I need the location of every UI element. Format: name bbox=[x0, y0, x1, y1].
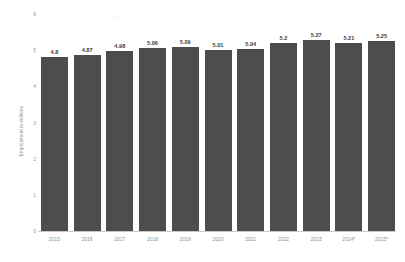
bar-value-label: 5.21 bbox=[335, 35, 362, 41]
bar-group: 5.09 bbox=[172, 14, 199, 231]
bar-group: 4.98 bbox=[106, 14, 133, 231]
bar-value-label: 5.06 bbox=[139, 40, 166, 46]
x-axis-tick: 2024* bbox=[333, 236, 364, 242]
x-axis-line bbox=[38, 231, 396, 232]
bar-group: 5.06 bbox=[139, 14, 166, 231]
x-axis-tick: 2021 bbox=[235, 236, 266, 242]
bar bbox=[172, 47, 199, 231]
bar bbox=[237, 49, 264, 231]
x-axis-tick: 2020 bbox=[203, 236, 234, 242]
bar-group: 5.01 bbox=[205, 14, 232, 231]
bar-value-label: 5.27 bbox=[303, 32, 330, 38]
bar bbox=[106, 51, 133, 231]
bar-value-label: 4.8 bbox=[41, 49, 68, 55]
bar-group: 5.27 bbox=[303, 14, 330, 231]
x-axis-tick-labels: 2015201620172018201920202021202220232024… bbox=[38, 236, 398, 248]
y-axis-tick: 0 bbox=[22, 228, 36, 234]
bar-group: 5.04 bbox=[237, 14, 264, 231]
bar bbox=[74, 55, 101, 231]
y-axis-tick-labels: 0123456 bbox=[22, 8, 36, 235]
x-axis-tick: 2018 bbox=[137, 236, 168, 242]
bar-group: 5.25 bbox=[368, 14, 395, 231]
x-axis-tick: 2023 bbox=[301, 236, 332, 242]
y-axis-tick: 5 bbox=[22, 47, 36, 53]
bar-group: 4.87 bbox=[74, 14, 101, 231]
y-axis-tick: 2 bbox=[22, 156, 36, 162]
bar bbox=[335, 43, 362, 231]
bar bbox=[368, 41, 395, 231]
bar-value-label: 5.09 bbox=[172, 39, 199, 45]
x-axis-tick: 2017 bbox=[104, 236, 135, 242]
bar bbox=[303, 40, 330, 231]
x-axis-tick: 2016 bbox=[72, 236, 103, 242]
bar-value-label: 5.2 bbox=[270, 35, 297, 41]
bar-value-label: 4.98 bbox=[106, 43, 133, 49]
bar bbox=[139, 48, 166, 231]
bar-group: 4.8 bbox=[41, 14, 68, 231]
bar-group: 5.21 bbox=[335, 14, 362, 231]
x-axis-tick: 2019 bbox=[170, 236, 201, 242]
x-axis-tick: 2022 bbox=[268, 236, 299, 242]
bar-value-label: 5.01 bbox=[205, 42, 232, 48]
x-axis-tick: 2025* bbox=[366, 236, 397, 242]
bar-series: 4.84.874.985.065.095.015.045.25.275.215.… bbox=[38, 14, 398, 231]
y-axis-tick: 3 bbox=[22, 120, 36, 126]
bar bbox=[270, 43, 297, 231]
y-axis-tick: 4 bbox=[22, 83, 36, 89]
y-axis-tick: 1 bbox=[22, 192, 36, 198]
bar bbox=[205, 50, 232, 231]
bar-value-label: 4.87 bbox=[74, 47, 101, 53]
x-axis-tick: 2015 bbox=[39, 236, 70, 242]
y-axis-tick: 6 bbox=[22, 11, 36, 17]
bar-chart: Statista Employment in millions 0123456 … bbox=[0, 0, 405, 262]
bar bbox=[41, 57, 68, 231]
bar-value-label: 5.25 bbox=[368, 33, 395, 39]
bar-group: 5.2 bbox=[270, 14, 297, 231]
bar-value-label: 5.04 bbox=[237, 41, 264, 47]
